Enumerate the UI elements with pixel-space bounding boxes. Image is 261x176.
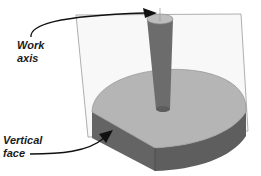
vertical-face-label-line1: Vertical bbox=[3, 134, 42, 147]
vertical-face-label: Vertical face bbox=[3, 134, 42, 160]
diagram-figure: Work axis Vertical face bbox=[0, 0, 261, 176]
vertical-face-label-line2: face bbox=[3, 147, 42, 160]
cylinder-base bbox=[156, 106, 170, 112]
work-axis-label-line2: axis bbox=[17, 52, 44, 65]
work-axis-label-line1: Work bbox=[17, 39, 44, 52]
work-axis-label: Work axis bbox=[17, 39, 44, 65]
